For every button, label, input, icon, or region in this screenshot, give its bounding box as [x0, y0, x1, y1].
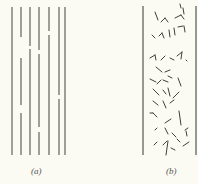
line-fragment — [155, 12, 158, 20]
line-fragment — [163, 141, 167, 145]
panel-a-label: (a) — [31, 166, 42, 176]
line-fragment — [150, 55, 155, 58]
line-fragment — [175, 15, 181, 18]
line-fragment — [183, 8, 184, 14]
line-fragment — [178, 26, 183, 27]
line-fragment — [173, 92, 179, 98]
figure-canvas — [0, 0, 198, 184]
line-fragment — [185, 128, 188, 130]
line-fragment — [178, 78, 181, 86]
line-fragment — [153, 101, 158, 105]
line-fragment — [180, 4, 181, 8]
line-fragment — [165, 119, 171, 123]
line-fragment — [163, 80, 168, 82]
panel-b-label: (b) — [166, 166, 177, 176]
line-fragment — [161, 56, 165, 60]
line-fragment — [162, 33, 164, 38]
line-fragment — [170, 58, 174, 60]
line-fragment — [150, 79, 156, 82]
line-fragment — [174, 28, 175, 35]
line-fragment — [170, 100, 174, 103]
line-fragment — [153, 113, 157, 117]
line-fragment — [168, 88, 170, 96]
panel-a-parallel-lines — [12, 7, 65, 155]
line-fragment — [159, 33, 162, 36]
line-fragment — [157, 80, 161, 84]
fragment-group — [150, 4, 189, 155]
line-fragment — [152, 35, 155, 38]
line-fragment — [163, 90, 166, 94]
line-fragment — [165, 70, 170, 72]
line-fragment — [177, 139, 180, 142]
line-fragment — [169, 30, 170, 37]
line-fragment — [179, 111, 181, 125]
line-fragment — [184, 26, 185, 32]
line-fragment — [154, 142, 157, 145]
line-fragment — [155, 55, 156, 60]
line-fragment — [186, 60, 187, 61]
line-fragment — [155, 128, 157, 130]
line-fragment — [156, 67, 162, 72]
line-fragment — [171, 148, 175, 150]
line-fragment — [186, 131, 187, 136]
line-fragment — [161, 18, 165, 22]
line-fragment — [183, 142, 189, 146]
line-fragment — [181, 15, 184, 19]
line-fragment — [153, 89, 159, 95]
line-fragment — [168, 76, 172, 78]
panel-b-random-fragments — [143, 4, 196, 155]
line-fragment — [166, 141, 168, 155]
line-fragment — [165, 18, 168, 22]
line-fragment — [163, 101, 166, 108]
line-fragment — [165, 128, 168, 134]
line-fragment — [172, 133, 176, 137]
